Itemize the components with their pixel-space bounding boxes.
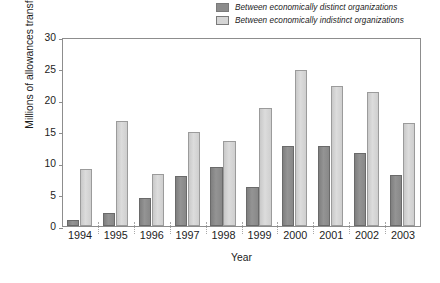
x-tick-label-1999: 1999 xyxy=(242,229,278,241)
bar-2001-series2 xyxy=(331,86,343,226)
bar-1998-series2 xyxy=(223,141,235,226)
legend-item-distinct: Between economically distinct organizati… xyxy=(216,2,438,13)
y-tick-mark xyxy=(59,165,63,166)
x-tick-label-2000: 2000 xyxy=(277,229,313,241)
bar-1995-series2 xyxy=(116,121,128,226)
x-tick-label-1998: 1998 xyxy=(206,229,242,241)
x-tick-label-1995: 1995 xyxy=(98,229,134,241)
y-tick-label: 30 xyxy=(45,32,56,43)
legend-swatch-distinct xyxy=(216,3,229,12)
y-tick-label: 20 xyxy=(45,95,56,106)
x-tick-label-2001: 2001 xyxy=(313,229,349,241)
y-tick-mark xyxy=(59,133,63,134)
x-axis-title: Year xyxy=(62,252,421,263)
y-tick-mark xyxy=(59,196,63,197)
bar-1997-series2 xyxy=(188,132,200,227)
y-tick-label: 0 xyxy=(50,221,56,232)
bar-2000-series2 xyxy=(295,70,307,226)
bar-2002-series2 xyxy=(367,92,379,226)
bar-2003-series1 xyxy=(390,175,402,226)
x-tick-label-1997: 1997 xyxy=(170,229,206,241)
bar-1996-series1 xyxy=(139,198,151,226)
bar-2002-series1 xyxy=(354,153,366,226)
y-tick-mark xyxy=(59,102,63,103)
y-axis-title: Millions of allowances transferred xyxy=(24,0,35,143)
bar-1999-series1 xyxy=(246,187,258,226)
bar-chart-figure: Between economically distinct organizati… xyxy=(0,0,440,283)
bar-1999-series2 xyxy=(259,108,271,226)
legend-swatch-indistinct xyxy=(216,16,229,25)
y-tick-mark xyxy=(59,39,63,40)
y-tick-label: 15 xyxy=(45,127,56,138)
y-tick-mark xyxy=(59,70,63,71)
bar-1994-series1 xyxy=(67,220,79,226)
bar-1997-series1 xyxy=(175,176,187,226)
bar-1995-series1 xyxy=(103,213,115,226)
legend-item-indistinct: Between economically indistinct organiza… xyxy=(216,15,438,26)
x-tick-label-2003: 2003 xyxy=(385,229,421,241)
bar-2000-series1 xyxy=(282,146,294,226)
bar-1998-series1 xyxy=(210,167,222,226)
x-tick-label-1994: 1994 xyxy=(62,229,98,241)
legend-label-distinct: Between economically distinct organizati… xyxy=(235,3,397,13)
chart-legend: Between economically distinct organizati… xyxy=(216,2,438,26)
bar-1994-series2 xyxy=(80,169,92,226)
plot-area: 051015202530 xyxy=(62,38,421,227)
bar-1996-series2 xyxy=(152,174,164,226)
legend-label-indistinct: Between economically indistinct organiza… xyxy=(235,16,404,26)
y-tick-label: 5 xyxy=(50,190,56,201)
x-tick-label-2002: 2002 xyxy=(349,229,385,241)
bar-2001-series1 xyxy=(318,146,330,226)
x-tick-label-1996: 1996 xyxy=(134,229,170,241)
y-tick-label: 25 xyxy=(45,64,56,75)
y-tick-label: 10 xyxy=(45,158,56,169)
bar-2003-series2 xyxy=(403,123,415,226)
